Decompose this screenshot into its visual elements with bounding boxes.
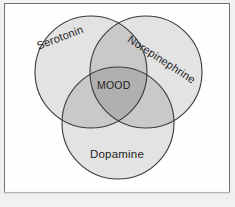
diagram-frame: Serotonin Norepinephrine MOOD Dopamine xyxy=(4,3,230,193)
venn-diagram-graphic xyxy=(5,4,231,194)
figure-canvas: Serotonin Norepinephrine MOOD Dopamine xyxy=(0,0,235,207)
